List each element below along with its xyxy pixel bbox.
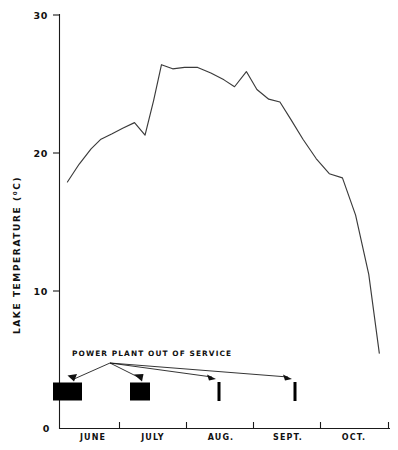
outage-marker-4 (294, 382, 297, 401)
x-axis-label-july: JULY (140, 433, 165, 442)
arrow-head-3 (207, 375, 216, 381)
annotation-caption: POWER PLANT OUT OF SERVICE (72, 349, 232, 358)
x-axis-label-june: JUNE (79, 433, 106, 442)
y-tick-label-0: 0 (43, 423, 50, 434)
outage-marker-1 (53, 383, 82, 401)
leader-line-1 (74, 363, 110, 379)
line-chart-canvas: 30 20 10 0 LAKE TEMPERATURE (⁰C) JUNE JU… (0, 0, 398, 450)
y-axis-title: LAKE TEMPERATURE (⁰C) (12, 176, 22, 334)
arrow-head-1 (68, 374, 78, 382)
y-tick-label-10: 10 (33, 286, 48, 297)
chart-figure: 30 20 10 0 LAKE TEMPERATURE (⁰C) JUNE JU… (0, 0, 398, 450)
arrow-head-4 (283, 375, 292, 381)
x-axis-label-oct: OCT. (342, 433, 366, 442)
x-axis-label-aug: AUG. (208, 433, 234, 442)
outage-marker-3 (218, 382, 221, 401)
outage-marker-2 (130, 383, 150, 401)
arrow-head-2 (134, 374, 144, 382)
y-tick-label-20: 20 (33, 148, 48, 159)
x-axis-label-sept: SEPT. (273, 433, 303, 442)
temperature-data-line (67, 65, 379, 353)
y-tick-label-30: 30 (33, 10, 48, 21)
